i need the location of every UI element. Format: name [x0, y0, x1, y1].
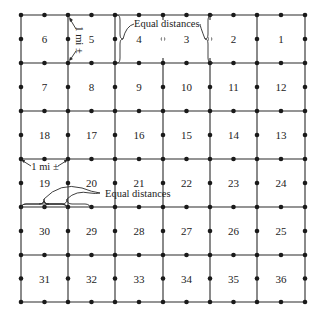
section-26-label: 26 [228, 225, 240, 237]
section-16-label: 16 [134, 129, 146, 141]
corner-node [66, 109, 71, 114]
corner-node [208, 157, 213, 162]
section-28-label: 28 [134, 225, 146, 237]
corner-node [303, 181, 308, 186]
section-33-label: 33 [134, 273, 146, 285]
corner-node [208, 253, 213, 258]
corner-node [255, 37, 260, 42]
corner-node [208, 133, 213, 138]
corner-node [161, 85, 166, 90]
corner-node [19, 37, 24, 42]
corner-node [303, 37, 308, 42]
corner-node [303, 85, 308, 90]
corner-node [161, 276, 166, 281]
corner-node [113, 300, 118, 305]
corner-node [42, 109, 47, 114]
corner-node [19, 85, 24, 90]
corner-node [208, 109, 213, 114]
corner-node [303, 61, 308, 66]
section-32-label: 32 [86, 273, 97, 285]
corner-node [255, 85, 260, 90]
corner-node [231, 300, 236, 305]
corner-node [66, 253, 71, 258]
corner-node [42, 253, 47, 258]
corner-node [113, 253, 118, 258]
corner-node [113, 109, 118, 114]
corner-node [89, 61, 94, 66]
corner-node [303, 109, 308, 114]
corner-node [19, 13, 24, 18]
corner-node [137, 61, 142, 66]
corner-node [303, 157, 308, 162]
corner-node [19, 300, 24, 305]
brace-left-icon [117, 15, 123, 63]
corner-node [19, 109, 24, 114]
corner-node [19, 229, 24, 234]
corner-node [279, 300, 284, 305]
corner-node [161, 109, 166, 114]
corner-node [113, 13, 118, 18]
corner-node [208, 229, 213, 234]
corner-node [113, 61, 118, 66]
section-20-label: 20 [86, 177, 98, 189]
corner-node [303, 300, 308, 305]
section-19-label: 19 [39, 177, 51, 189]
corner-node [279, 205, 284, 210]
section-36-label: 36 [276, 273, 288, 285]
corner-node [113, 229, 118, 234]
section-24-label: 24 [276, 177, 288, 189]
mile-vertical-annotation: 1 mi ± [69, 17, 85, 61]
section-2-label: 2 [231, 33, 237, 45]
corner-node [161, 205, 166, 210]
corner-node [19, 181, 24, 186]
corner-node [231, 109, 236, 114]
section-1-label: 1 [278, 33, 284, 45]
township-section-diagram: 6543217891011121817161514131920212223243… [0, 0, 324, 319]
corner-node [42, 61, 47, 66]
corner-node [113, 85, 118, 90]
section-23-label: 23 [228, 177, 240, 189]
corner-node [255, 61, 260, 66]
corner-node [255, 157, 260, 162]
corner-node [66, 13, 71, 18]
corner-node [303, 13, 308, 18]
section-12-label: 12 [276, 81, 287, 93]
section-30-label: 30 [39, 225, 51, 237]
corner-node [113, 37, 118, 42]
corner-node [161, 157, 166, 162]
section-35-label: 35 [228, 273, 240, 285]
corner-node [255, 109, 260, 114]
corner-node [255, 229, 260, 234]
corner-node [161, 181, 166, 186]
corner-node [184, 205, 189, 210]
corner-node [279, 157, 284, 162]
section-34-label: 34 [181, 273, 193, 285]
section-14-label: 14 [228, 129, 240, 141]
corner-node [89, 300, 94, 305]
corner-node [66, 276, 71, 281]
corner-node [113, 276, 118, 281]
corner-node [255, 276, 260, 281]
corner-node [66, 300, 71, 305]
section-11-label: 11 [228, 81, 239, 93]
corner-node [255, 13, 260, 18]
corner-node [42, 300, 47, 305]
corner-node [66, 37, 71, 42]
corner-node [161, 133, 166, 138]
corner-node [208, 181, 213, 186]
section-15-label: 15 [181, 129, 193, 141]
section-10-label: 10 [181, 81, 193, 93]
corner-node [19, 133, 24, 138]
section-29-label: 29 [86, 225, 98, 237]
corner-node [19, 253, 24, 258]
corner-node [279, 253, 284, 258]
equal-distances-bottom-label: Equal distances [105, 188, 171, 199]
corner-node [231, 13, 236, 18]
corner-node [137, 300, 142, 305]
corner-node [89, 157, 94, 162]
corner-node [66, 229, 71, 234]
corner-node [161, 229, 166, 234]
corner-node [208, 300, 213, 305]
corner-node [89, 253, 94, 258]
corner-node [255, 300, 260, 305]
